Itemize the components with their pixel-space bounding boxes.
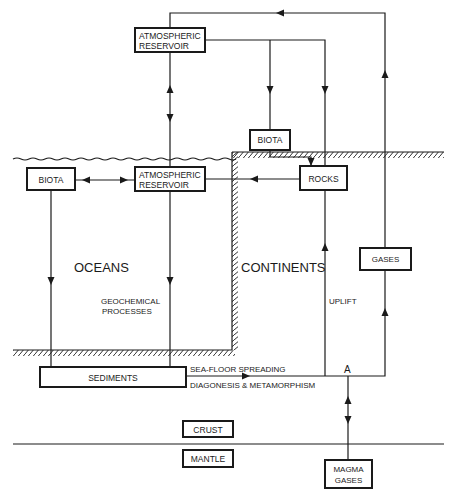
uplift-label: UPLIFT bbox=[329, 297, 357, 306]
diagenesis-metamorphism-label: DIAGONESIS & METAMORPHISM bbox=[190, 381, 316, 390]
arrow-left-icon bbox=[82, 177, 90, 184]
svg-text:GASES: GASES bbox=[335, 476, 363, 485]
rocks-to-atmos-line bbox=[205, 176, 300, 183]
sea-floor bbox=[13, 350, 235, 356]
arrow-left-icon bbox=[250, 176, 258, 183]
arrow-down-icon bbox=[345, 416, 352, 424]
svg-text:ATMOSPHERIC: ATMOSPHERIC bbox=[139, 170, 201, 180]
svg-text:MAGMA: MAGMA bbox=[333, 465, 364, 474]
arrow-down-icon bbox=[167, 114, 174, 122]
arrow-down-icon bbox=[308, 158, 315, 166]
svg-text:ATMOSPHERIC: ATMOSPHERIC bbox=[139, 31, 201, 41]
svg-text:BIOTA: BIOTA bbox=[39, 175, 64, 185]
svg-text:BIOTA: BIOTA bbox=[258, 135, 283, 145]
arrow-up-icon bbox=[382, 70, 389, 78]
continents-label: CONTINENTS bbox=[241, 260, 326, 275]
sediments-box: SEDIMENTS bbox=[40, 367, 186, 387]
arrow-up-icon bbox=[322, 243, 329, 251]
gases-box: GASES bbox=[360, 248, 411, 270]
svg-text:SEDIMENTS: SEDIMENTS bbox=[88, 373, 138, 383]
a-to-magma-line bbox=[345, 376, 352, 460]
atmos-exchange-line bbox=[167, 52, 174, 167]
arrow-up-icon bbox=[345, 396, 352, 404]
geochemical-processes-label: GEOCHEMICAL bbox=[101, 297, 161, 306]
arrow-up-icon bbox=[382, 308, 389, 316]
biota-to-sediments-line bbox=[48, 190, 55, 367]
atmos-to-sediments-line bbox=[167, 191, 174, 367]
arrow-left-icon bbox=[276, 10, 284, 17]
arrow-right-icon bbox=[120, 177, 128, 184]
biota-ocean-box: BIOTA bbox=[27, 168, 75, 190]
sea-floor-spreading-label: SEA-FLOOR SPREADING bbox=[190, 365, 286, 374]
svg-text:GASES: GASES bbox=[372, 255, 400, 264]
svg-text:MANTLE: MANTLE bbox=[191, 454, 226, 464]
biota-atmos-exchange-line bbox=[75, 177, 135, 184]
rocks-box: ROCKS bbox=[300, 166, 347, 190]
arrow-down-icon bbox=[48, 277, 55, 285]
arrow-down-icon bbox=[167, 277, 174, 285]
sea-surface-line bbox=[13, 158, 236, 160]
svg-text:RESERVOIR: RESERVOIR bbox=[139, 180, 189, 190]
geochemical-processes-label-2: PROCESSES bbox=[102, 307, 152, 316]
mantle-box: MANTLE bbox=[183, 450, 233, 467]
svg-text:RESERVOIR: RESERVOIR bbox=[139, 41, 189, 51]
arrow-down-icon bbox=[267, 86, 274, 94]
geochemical-cycle-diagram: ATMOSPHERIC RESERVOIR BIOTA BIOTA ATMOSP… bbox=[0, 0, 451, 495]
arrow-down-icon bbox=[322, 86, 329, 94]
magma-gases-box: MAGMA GASES bbox=[325, 460, 372, 488]
atmospheric-reservoir-ocean-box: ATMOSPHERIC RESERVOIR bbox=[135, 167, 205, 191]
oceans-label: OCEANS bbox=[74, 260, 129, 275]
biota-land-box: BIOTA bbox=[250, 130, 290, 150]
point-a-label: A bbox=[344, 364, 351, 375]
svg-text:CRUST: CRUST bbox=[193, 425, 222, 435]
arrow-up-icon bbox=[167, 85, 174, 93]
crust-box: CRUST bbox=[183, 421, 233, 437]
svg-text:ROCKS: ROCKS bbox=[308, 174, 339, 184]
atmospheric-reservoir-top-box: ATMOSPHERIC RESERVOIR bbox=[135, 28, 205, 52]
